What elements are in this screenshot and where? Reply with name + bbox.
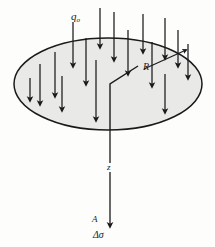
load-subscript: o — [77, 16, 81, 24]
depth-axis-label: z — [106, 163, 112, 172]
figure-container: qo R z A Δσ — [0, 0, 215, 247]
loaded-circular-area — [14, 38, 202, 130]
load-label: qo — [71, 11, 80, 24]
stress-increase-label: Δσ — [93, 230, 104, 240]
point-label: A — [92, 215, 98, 224]
diagram-canvas — [0, 0, 215, 247]
radius-label: R — [143, 62, 149, 72]
